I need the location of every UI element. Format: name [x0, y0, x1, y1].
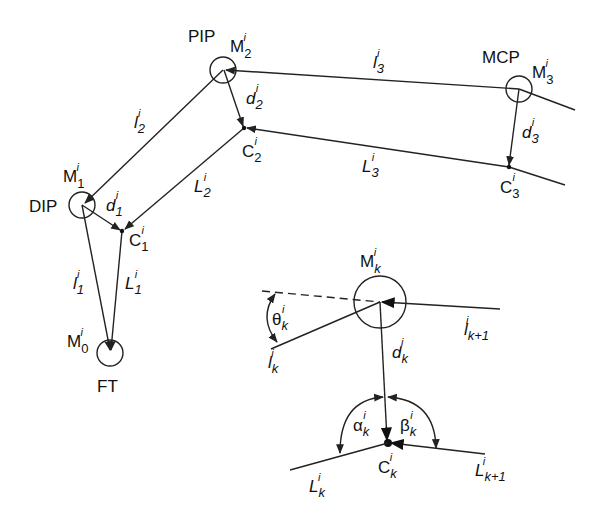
label-m2: M2i: [230, 31, 251, 61]
label-L3: L3i: [362, 151, 379, 180]
label-m1: M1i: [63, 161, 84, 191]
segment-Lk1: [391, 443, 485, 454]
label-lk: lki: [268, 347, 280, 376]
label-c3: C3i: [500, 171, 520, 201]
segment-c3-tail: [509, 167, 565, 185]
finger-chain: [69, 57, 575, 366]
label-ck: Cki: [378, 451, 398, 481]
label-lk1: lk+1i: [464, 314, 489, 343]
contact-c2-dot: [242, 126, 246, 130]
segment-l3: [226, 70, 519, 89]
label-mk: Mki: [360, 246, 382, 276]
label-L2: L2i: [194, 171, 211, 200]
contact-c1-dot: [120, 229, 124, 233]
segment-L1: [111, 231, 122, 350]
label-l1: l1i: [73, 268, 84, 297]
label-ft: FT: [97, 377, 118, 396]
segment-L3: [247, 128, 509, 167]
label-m0: M0i: [67, 326, 88, 356]
label-c2: C2i: [242, 135, 262, 165]
label-theta-k: θki: [272, 303, 289, 333]
label-dk: dki: [392, 336, 409, 366]
beta-arc: [388, 397, 436, 448]
segment-l1: [82, 205, 110, 350]
label-dip: DIP: [29, 197, 57, 216]
label-beta-k: βki: [400, 409, 418, 439]
label-m3: M3i: [532, 57, 553, 87]
segment-Lk: [290, 443, 388, 470]
generic-joint-detail: [262, 276, 500, 470]
segment-lk1: [382, 302, 500, 309]
label-d1: d1i: [106, 189, 123, 219]
label-mcp: MCP: [482, 48, 520, 67]
label-alpha-k: αki: [353, 409, 371, 439]
contact-c3-dot: [507, 165, 511, 169]
label-d2: d2i: [246, 82, 263, 112]
label-pip: PIP: [188, 27, 215, 46]
label-c1: C1i: [129, 224, 149, 254]
label-l2: l2i: [134, 107, 146, 136]
label-L1: L1i: [125, 268, 142, 297]
offset-dk: [380, 302, 387, 440]
joint-m0-circle: [97, 340, 123, 366]
label-l3: l3i: [373, 47, 385, 76]
extension-dashed-line: [262, 291, 380, 302]
label-Lk1: Lk+1i: [475, 455, 506, 484]
segment-L2: [125, 128, 244, 229]
generic-joint-labels: Mki θki lki lk+1i dki αki βki Lki Cki Lk…: [268, 246, 506, 500]
label-d3: d3i: [522, 116, 539, 146]
label-Lk: Lki: [309, 471, 326, 500]
finger-kinematic-diagram: PIP M2i MCP M3i l3i L3i d2i C2i d3i C3i …: [0, 0, 603, 518]
